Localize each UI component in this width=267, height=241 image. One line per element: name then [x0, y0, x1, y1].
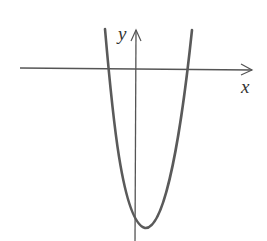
parabola-curve: [105, 29, 192, 228]
x-axis-label: x: [241, 77, 249, 96]
y-axis: [135, 30, 136, 241]
y-axis-label: y: [118, 24, 126, 43]
parabola-graph: [0, 0, 267, 241]
